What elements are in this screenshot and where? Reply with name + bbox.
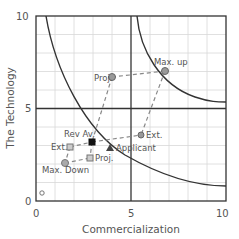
y-tick-10: 10 (16, 11, 29, 22)
inner-boundary-curve (46, 16, 226, 186)
ext-left-label: Ext. (51, 142, 67, 152)
proj-top-label: Proj. (94, 73, 113, 83)
applicant-marker (106, 144, 114, 151)
origin-marker (40, 191, 44, 195)
chart: Max. up Proj. Ext. Rev Av. Applicant Ext… (0, 0, 239, 239)
y-axis-label: The Technology (4, 67, 16, 150)
max-up-marker (162, 68, 169, 75)
y-tick-5: 5 (25, 103, 31, 114)
max-down-label: Max. Down (42, 165, 89, 175)
ext-right-label: Ext. (146, 130, 162, 140)
ext-left-marker (67, 144, 73, 150)
rev-av-marker (89, 139, 96, 146)
applicant-label: Applicant (116, 143, 157, 153)
x-axis-label: Commercialization (82, 223, 180, 235)
y-tick-0: 0 (25, 196, 31, 207)
x-tick-5: 5 (128, 208, 134, 219)
ext-right-marker (138, 132, 144, 138)
rev-av-label: Rev Av. (64, 129, 95, 139)
proj-bottom-label: Proj. (95, 153, 114, 163)
x-tick-10: 10 (216, 208, 229, 219)
proj-bottom-marker (87, 155, 93, 161)
x-tick-0: 0 (33, 208, 39, 219)
max-up-label: Max. up (154, 57, 188, 67)
